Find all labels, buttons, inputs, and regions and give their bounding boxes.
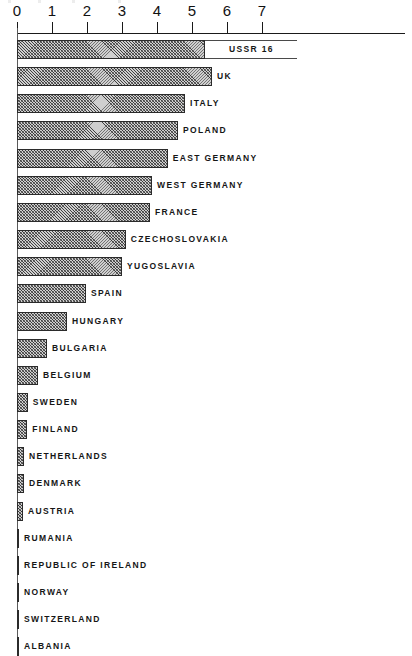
bar-label: REPUBLIC OF IRELAND: [24, 560, 147, 571]
bar-row: YUGOSLAVIA: [0, 257, 412, 276]
axis-tick-label: 3: [118, 3, 126, 18]
axis-tick: [192, 22, 193, 33]
bar-label: UK: [217, 71, 232, 82]
bar[interactable]: [17, 339, 47, 358]
bar-row: RUMANIA: [0, 529, 412, 548]
bar-row: BELGIUM: [0, 366, 412, 385]
axis-tick-label: 1: [48, 3, 56, 18]
bar-row: ALBANIA: [0, 637, 412, 656]
bar-label: SPAIN: [91, 288, 123, 299]
bar-label: SWITZERLAND: [24, 614, 101, 625]
x-axis-line: [17, 33, 405, 34]
bar-label: DENMARK: [29, 478, 82, 489]
axis-tick-label: 2: [83, 3, 91, 18]
axis-tick-label: 0: [13, 3, 21, 18]
bar-label: HUNGARY: [72, 316, 124, 327]
bar[interactable]: [17, 556, 19, 575]
bar-label: NORWAY: [24, 587, 69, 598]
bar-row: UK: [0, 67, 412, 86]
bar-label: BULGARIA: [52, 343, 108, 354]
bar-label: ITALY: [190, 98, 220, 109]
bar-label: WEST GERMANY: [157, 180, 244, 191]
bar-row: CZECHOSLOVAKIA: [0, 230, 412, 249]
bar-label: EAST GERMANY: [173, 153, 258, 164]
bar[interactable]: [17, 583, 19, 602]
bar[interactable]: [17, 149, 168, 168]
bar-label: BELGIUM: [43, 370, 92, 381]
bar[interactable]: [17, 447, 24, 466]
bar-row: SPAIN: [0, 284, 412, 303]
bar-row: AUSTRIA: [0, 502, 412, 521]
bar-row: ITALY: [0, 94, 412, 113]
bar-label: POLAND: [183, 125, 227, 136]
bar-label: FRANCE: [155, 207, 199, 218]
axis-tick-label: 6: [223, 3, 231, 18]
bar[interactable]: [17, 67, 212, 86]
bar[interactable]: [17, 121, 178, 140]
axis-tick: [52, 22, 53, 33]
bar-row: USSR 16: [0, 40, 412, 59]
bar-label: AUSTRIA: [28, 506, 75, 517]
axis-tick: [122, 22, 123, 33]
bar-label: NETHERLANDS: [29, 451, 108, 462]
bar-row: WEST GERMANY: [0, 176, 412, 195]
bar-row: SWEDEN: [0, 393, 412, 412]
axis-tick-label: 4: [153, 3, 161, 18]
bar[interactable]: [17, 257, 122, 276]
bar-label: YUGOSLAVIA: [127, 261, 196, 272]
bar-row: REPUBLIC OF IRELAND: [0, 556, 412, 575]
axis-tick: [227, 22, 228, 33]
bar-row: FRANCE: [0, 203, 412, 222]
bar-label: RUMANIA: [24, 533, 74, 544]
bar[interactable]: [17, 393, 28, 412]
bar[interactable]: [17, 40, 205, 59]
bar[interactable]: [17, 502, 23, 521]
bar[interactable]: [17, 474, 24, 493]
bar-row: BULGARIA: [0, 339, 412, 358]
bar[interactable]: [17, 176, 152, 195]
bar-label: SWEDEN: [33, 397, 78, 408]
scan-artifact: [0, 0, 412, 3]
axis-tick: [262, 22, 263, 33]
bar-label: USSR 16: [229, 44, 274, 55]
bar-row: NETHERLANDS: [0, 447, 412, 466]
bar[interactable]: [17, 420, 27, 439]
bar-label: FINLAND: [32, 424, 79, 435]
bar[interactable]: [17, 366, 38, 385]
axis-tick: [87, 22, 88, 33]
bar[interactable]: [17, 230, 126, 249]
bar-row: SWITZERLAND: [0, 610, 412, 629]
bar-label: ALBANIA: [24, 641, 72, 652]
bar[interactable]: [17, 203, 150, 222]
bar[interactable]: [17, 610, 19, 629]
bar-label: CZECHOSLOVAKIA: [131, 234, 229, 245]
bar-row: POLAND: [0, 121, 412, 140]
axis-tick-label: 7: [258, 3, 266, 18]
bar-row: DENMARK: [0, 474, 412, 493]
bar[interactable]: [17, 637, 19, 656]
axis-tick-label: 5: [188, 3, 196, 18]
bar[interactable]: [17, 94, 185, 113]
bar[interactable]: [17, 529, 19, 548]
bar-row: HUNGARY: [0, 312, 412, 331]
bar[interactable]: [17, 284, 86, 303]
bar-row: FINLAND: [0, 420, 412, 439]
bar-row: EAST GERMANY: [0, 149, 412, 168]
bar-row: NORWAY: [0, 583, 412, 602]
bar[interactable]: [17, 312, 67, 331]
axis-tick: [157, 22, 158, 33]
